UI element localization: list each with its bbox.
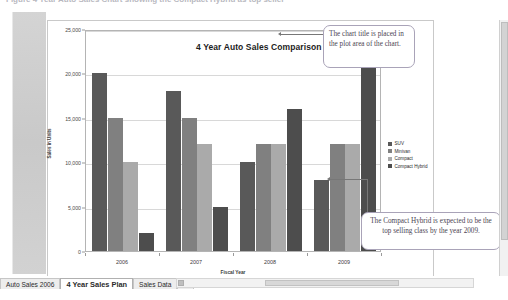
bar[interactable] — [345, 144, 360, 251]
legend-swatch-icon — [388, 164, 392, 168]
legend-label: Minivan — [395, 149, 411, 154]
y-axis-tick-label: 0 — [78, 249, 81, 255]
bar[interactable] — [213, 207, 228, 251]
callout-title-arrow-icon — [278, 32, 281, 36]
callout-compact-hybrid-note: The Compact Hybrid is expected to be the… — [361, 212, 501, 250]
chart-legend[interactable]: SUVMinivanCompactCompact Hybrid — [388, 141, 434, 171]
x-axis-tick-mark — [159, 253, 160, 256]
horizontal-scrollbar-thumb[interactable] — [265, 280, 399, 286]
chart-title: 4 Year Auto Sales Comparison — [196, 42, 322, 52]
bar[interactable] — [271, 144, 286, 251]
excel-chart-screenshot: Figure 4 Year Auto Sales Chart showing t… — [0, 0, 508, 300]
legend-swatch-icon — [388, 149, 392, 153]
legend-swatch-icon — [388, 142, 392, 146]
sheet-tab-auto-sales-2006[interactable]: Auto Sales 2006 — [0, 278, 60, 289]
y-axis-title: Sales in Units — [47, 128, 52, 158]
x-axis-tick-mark — [85, 253, 86, 256]
worksheet-area: Sales in Units 05,00010,00015,00020,0002… — [0, 9, 508, 276]
bar[interactable] — [330, 144, 345, 251]
bar[interactable] — [139, 233, 154, 251]
callout-chart-title-note: The chart title is placed in the plot ar… — [323, 25, 415, 68]
bar[interactable] — [256, 144, 271, 251]
legend-item-minivan[interactable]: Minivan — [388, 149, 434, 154]
legend-swatch-icon — [388, 157, 392, 161]
x-axis-tick-mark — [307, 253, 308, 256]
x-axis-tick-label: 2009 — [338, 259, 350, 265]
bar[interactable] — [108, 118, 123, 251]
ribbon-remnant-strip: Figure 4 Year Auto Sales Chart showing t… — [0, 0, 508, 9]
legend-label: SUV — [395, 141, 404, 146]
sheet-tab-bar: Auto Sales 20064 Year Sales PlanSales Da… — [0, 276, 508, 300]
bar[interactable] — [92, 73, 107, 251]
y-axis-tick-label: 25,000 — [65, 27, 81, 33]
vertical-scrollbar-thumb[interactable] — [501, 22, 508, 240]
x-axis-tick-label: 2008 — [264, 259, 276, 265]
x-axis-title: Fiscal Year — [221, 270, 246, 275]
legend-item-compact-hybrid[interactable]: Compact Hybrid — [388, 164, 434, 169]
bar[interactable] — [240, 162, 255, 251]
horizontal-scrollbar-start-button[interactable] — [178, 280, 184, 286]
callout-hybrid-arrow-icon — [327, 177, 330, 181]
sheet-tabs[interactable]: Auto Sales 20064 Year Sales PlanSales Da… — [0, 278, 194, 289]
x-axis-tick-label: 2007 — [190, 259, 202, 265]
callout-hybrid-connector-down — [367, 179, 368, 213]
sheet-tab-sales-data[interactable]: Sales Data — [133, 278, 177, 289]
legend-label: Compact Hybrid — [395, 164, 428, 169]
bar[interactable] — [314, 180, 329, 251]
ribbon-remnant-text: Figure 4 Year Auto Sales Chart showing t… — [6, 0, 284, 4]
y-axis-tick-label: 15,000 — [65, 116, 81, 122]
legend-label: Compact — [395, 156, 413, 161]
legend-item-suv[interactable]: SUV — [388, 141, 434, 146]
y-axis-tick-label: 10,000 — [65, 160, 81, 166]
sheet-tab-4-year-sales-plan[interactable]: 4 Year Sales Plan — [60, 278, 133, 289]
bar[interactable] — [287, 109, 302, 251]
bar[interactable] — [197, 144, 212, 251]
frozen-column-band — [13, 12, 46, 274]
x-axis-tick-mark — [233, 253, 234, 256]
y-axis: Sales in Units 05,00010,00015,00020,0002… — [48, 30, 85, 252]
bar[interactable] — [166, 91, 181, 251]
horizontal-scrollbar[interactable] — [176, 278, 474, 288]
callout-title-connector-line — [281, 34, 323, 35]
y-axis-tick-label: 20,000 — [65, 71, 81, 77]
bar[interactable] — [182, 118, 197, 251]
bar[interactable] — [123, 162, 138, 251]
vertical-scrollbar[interactable] — [499, 20, 508, 285]
x-axis-tick-mark — [381, 253, 382, 256]
legend-item-compact[interactable]: Compact — [388, 156, 434, 161]
callout-hybrid-connector-line — [330, 179, 368, 180]
x-axis-tick-label: 2006 — [116, 259, 128, 265]
y-axis-tick-label: 5,000 — [68, 205, 81, 211]
